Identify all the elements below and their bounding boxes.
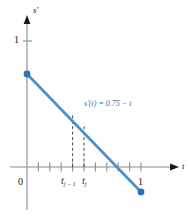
x-axis-label: t: [182, 162, 185, 171]
plot-svg: [0, 0, 190, 216]
partition-label-t-prev: tj − 1: [61, 176, 76, 186]
partition-label-t-j: tj: [82, 176, 86, 186]
x-tick-label-0: 0: [18, 177, 23, 187]
y-axis-arrowhead: [24, 15, 31, 24]
endpoint-marker-right: [138, 189, 145, 196]
y-tick-label-1: 1: [14, 35, 19, 45]
figure-container: s′ 1 t 0 1 tj − 1 tj s′(t) = 0.75 − t: [0, 0, 190, 216]
endpoint-marker-left: [24, 71, 31, 78]
x-tick-label-1: 1: [138, 177, 143, 187]
y-axis-label: s′: [33, 6, 38, 15]
x-axis-arrowhead: [170, 164, 179, 171]
partition-label-t-prev-sub: j − 1: [64, 181, 76, 187]
equation-annotation: s′(t) = 0.75 − t: [84, 100, 131, 108]
